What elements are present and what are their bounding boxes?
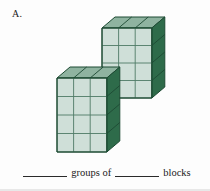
blank-groups-input[interactable] bbox=[23, 167, 67, 177]
block-figure bbox=[0, 0, 210, 160]
worksheet-page: A. groups of blocks bbox=[0, 0, 210, 191]
caption-groups-of-label: groups of bbox=[71, 167, 111, 178]
caption: groups of blocks bbox=[0, 160, 210, 184]
page-bottom-edge bbox=[0, 189, 210, 191]
lower-block bbox=[57, 67, 120, 152]
caption-blocks-label: blocks bbox=[163, 167, 190, 178]
blank-blocks-input[interactable] bbox=[115, 167, 159, 177]
